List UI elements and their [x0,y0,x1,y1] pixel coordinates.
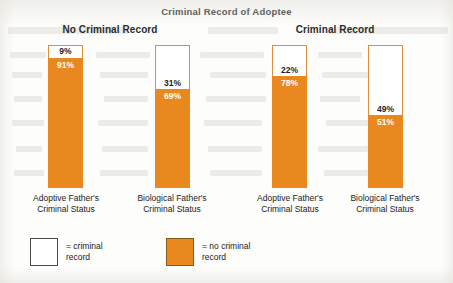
category-label-line1: Adoptive Father's [12,193,120,204]
stacked-bar: 22% 78% [272,45,307,188]
category-label: Biological Father's Criminal Status [331,193,439,215]
legend-swatch-orange-icon [166,238,194,266]
legend-swatch-white-icon [30,238,58,266]
bar-segment-no-criminal-record: 51% [368,115,403,188]
category-label-line2: Criminal Status [236,204,344,215]
category-label-line2: Criminal Status [331,204,439,215]
stacked-bar: 9% 91% [48,45,83,188]
category-label-line2: Criminal Status [118,204,226,215]
bar-segment-criminal-record: 31% [155,45,190,89]
category-label-line1: Adoptive Father's [236,193,344,204]
bar-segment-criminal-record: 49% [368,45,403,115]
stacked-bar: 31% 69% [155,45,190,188]
group-header-no-criminal-record: No Criminal Record [20,24,200,35]
bar-segment-value: 91% [57,61,74,70]
legend-label: = no criminal record [202,238,250,263]
group-header-criminal-record: Criminal Record [245,24,425,35]
chart-container: Criminal Record of Adoptee No Criminal R… [0,0,453,283]
legend-label: = criminal record [66,238,103,263]
bar-segment-value: 69% [164,92,181,101]
bar-segment-value: 49% [377,105,394,116]
category-label-line2: Criminal Status [12,204,120,215]
category-label-line1: Biological Father's [331,193,439,204]
legend-item-no-criminal-record: = no criminal record [166,238,250,266]
legend-item-criminal-record: = criminal record [30,238,103,266]
bar-segment-no-criminal-record: 91% [48,58,83,188]
bar-segment-criminal-record: 22% [272,45,307,76]
category-label-line1: Biological Father's [118,193,226,204]
chart-title: Criminal Record of Adoptee [0,6,453,17]
bar-segment-value: 51% [377,118,394,127]
category-label: Adoptive Father's Criminal Status [12,193,120,215]
category-label: Adoptive Father's Criminal Status [236,193,344,215]
bar-segment-value: 31% [164,79,181,90]
bar-segment-value: 78% [281,79,298,88]
category-label: Biological Father's Criminal Status [118,193,226,215]
bar-segment-value: 9% [59,47,71,58]
bar-segment-no-criminal-record: 78% [272,76,307,188]
stacked-bar: 49% 51% [368,45,403,188]
bar-segment-no-criminal-record: 69% [155,89,190,188]
bar-segment-criminal-record: 9% [48,45,83,58]
bar-segment-value: 22% [281,66,298,77]
chart-legend: = criminal record = no criminal record [30,238,330,272]
